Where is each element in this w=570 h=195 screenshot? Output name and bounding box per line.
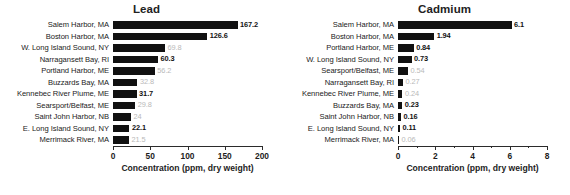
bar-area: 69.8 [113,42,275,54]
axis-tick [473,146,474,150]
bar-value-label: 0.84 [416,44,430,52]
bar-value-label: 24 [133,113,141,121]
bar [113,79,137,87]
category-label: Saint John Harbor, NB [0,112,113,121]
bar [398,136,399,144]
bar-area: 0.16 [398,111,560,123]
bar-area: 22.1 [113,123,275,135]
bar [113,44,165,52]
bar-rows-cadmium: Salem Harbor, MA6.1Boston Harbor, MA1.94… [285,19,560,146]
bar-row: E. Long Island Sound, NY22.1 [0,123,275,135]
bar-value-label: 22.1 [132,124,146,132]
bar-area: 6.1 [398,19,560,31]
bar-row: Saint John Harbor, NB24 [0,111,275,123]
bar-value-label: 32.8 [140,78,154,86]
bar-value-label: 0.11 [403,124,417,132]
bar-value-label: 31.7 [139,90,153,98]
bar-rows-lead: Salem Harbor, MA167.2Boston Harbor, MA12… [0,19,275,146]
axis-minor-tick [454,146,455,148]
x-axis-title-lead: Concentration (ppm, dry weight) [113,163,262,173]
bar-row: Narragansett Bay, RI0.27 [285,77,560,89]
bar [113,102,135,110]
bar-row: Merrimack River, MA0.06 [285,134,560,146]
x-axis-ticks-cadmium: 02468 [398,146,547,160]
category-label: Salem Harbor, MA [285,20,398,29]
bar-row: Salem Harbor, MA6.1 [285,19,560,31]
axis-tick-label: 2 [433,151,438,161]
axis-tick-label: 50 [146,151,155,161]
category-label: Narragansett Bay, RI [0,55,113,64]
bar [398,56,412,64]
bar [398,79,403,87]
axis-minor-tick [528,146,529,148]
bar-value-label: 29.8 [138,101,152,109]
chart-panel-lead: Lead Salem Harbor, MA167.2Boston Harbor,… [0,0,285,195]
bar [398,33,434,41]
axis-tick-label: 100 [181,151,195,161]
bar-row: Narragansett Bay, RI60.3 [0,54,275,66]
bar [113,90,137,98]
bar [113,67,155,75]
axis-tick-label: 150 [218,151,232,161]
bar [398,113,401,121]
axis-tick-label: 6 [507,151,512,161]
axis-tick [262,146,263,150]
category-label: Salem Harbor, MA [0,20,113,29]
plot-area-lead: Salem Harbor, MA167.2Boston Harbor, MA12… [0,19,275,146]
bar-area: 32.8 [113,77,275,89]
bar [398,90,402,98]
category-label: Portland Harbor, ME [0,66,113,75]
bar-row: W. Long Island Sound, NY69.8 [0,42,275,54]
bar-row: Saint John Harbor, NB0.16 [285,111,560,123]
bar-area: 0.06 [398,134,560,146]
axis-tick-label: 0 [396,151,401,161]
category-label: Narragansett Bay, RI [285,78,398,87]
category-label: Merrimack River, MA [285,135,398,144]
bar-row: Buzzards Bay, MA0.23 [285,100,560,112]
bar [398,67,408,75]
bar [113,136,129,144]
bar-area: 56.2 [113,65,275,77]
bar [113,21,238,29]
bar-row: Boston Harbor, MA126.6 [0,31,275,43]
category-label: Portland Harbor, ME [285,43,398,52]
axis-tick [510,146,511,150]
plot-area-cadmium: Salem Harbor, MA6.1Boston Harbor, MA1.94… [285,19,560,146]
bar-row: Boston Harbor, MA1.94 [285,31,560,43]
bar [398,44,414,52]
bar-area: 0.11 [398,123,560,135]
bar [398,102,402,110]
category-label: Saint John Harbor, NB [285,112,398,121]
bar-value-label: 69.8 [168,44,182,52]
category-label: Buzzards Bay, MA [285,101,398,110]
axis-minor-tick [491,146,492,148]
category-label: Kennebec River Plume, ME [285,89,398,98]
bar-area: 60.3 [113,54,275,66]
category-label: Searsport/Belfast, ME [285,66,398,75]
bar-value-label: 0.23 [405,101,419,109]
bar-value-label: 21.5 [132,136,146,144]
axis-tick-label: 200 [255,151,269,161]
bar-area: 0.24 [398,88,560,100]
axis-tick [188,146,189,150]
bar [113,56,158,64]
bar-area: 126.6 [113,31,275,43]
bar-area: 0.73 [398,54,560,66]
bar-value-label: 1.94 [437,32,451,40]
bar-value-label: 0.27 [406,78,420,86]
axis-tick [113,146,114,150]
bar-row: W. Long Island Sound, NY0.73 [285,54,560,66]
category-label: Boston Harbor, MA [0,32,113,41]
axis-tick-label: 0 [111,151,116,161]
category-label: Buzzards Bay, MA [0,78,113,87]
axis-tick [150,146,151,150]
bar-row: Kennebec River Plume, ME0.24 [285,88,560,100]
two-panel-bar-chart-figure: Lead Salem Harbor, MA167.2Boston Harbor,… [0,0,570,195]
bar-value-label: 167.2 [240,21,258,29]
bar-row: Portland Harbor, ME56.2 [0,65,275,77]
bar-value-label: 0.73 [414,55,428,63]
bar [113,125,129,133]
bar-row: Salem Harbor, MA167.2 [0,19,275,31]
bar-value-label: 0.16 [403,113,417,121]
bar-area: 31.7 [113,88,275,100]
